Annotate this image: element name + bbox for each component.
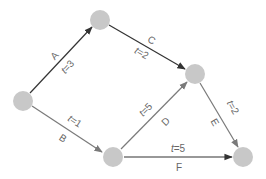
edge-d-label: D — [159, 115, 172, 128]
edge-f-label: F — [176, 162, 182, 173]
edge-e-label: E — [209, 117, 222, 129]
edge-b-label: B — [57, 132, 69, 145]
nodes — [13, 10, 253, 167]
edge-b — [32, 106, 102, 152]
activity-network-diagram: A t=3 t=1 B C t=2 t=5 D E t=2 t=5 F — [0, 0, 266, 179]
edge-f-time: t=5 — [171, 143, 186, 154]
edge-e-time: t=2 — [225, 98, 242, 116]
edge-c — [109, 25, 185, 69]
node-5 — [233, 147, 253, 167]
node-4 — [103, 147, 123, 167]
edge-d-time: t=5 — [137, 100, 155, 118]
node-3 — [185, 64, 205, 84]
edge-b-time: t=1 — [66, 113, 84, 130]
edge-a-label: A — [48, 49, 61, 62]
edge-a — [30, 27, 92, 93]
node-1 — [13, 91, 33, 111]
node-2 — [90, 10, 110, 30]
edge-c-label: C — [146, 33, 158, 46]
edge-d — [121, 82, 187, 149]
